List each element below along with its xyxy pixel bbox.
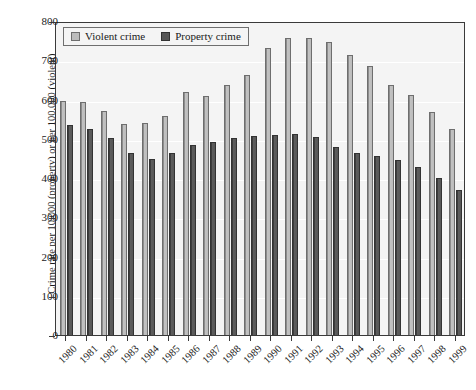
y-tick-mark xyxy=(49,297,55,298)
bar-property-crime xyxy=(149,159,155,335)
bar-violent-crime xyxy=(183,92,189,335)
x-tick-mark xyxy=(147,336,148,341)
x-tick-mark xyxy=(291,336,292,341)
bar-violent-crime xyxy=(306,38,312,336)
y-tick-mark xyxy=(49,140,55,141)
bar-property-crime xyxy=(456,190,462,335)
bar-violent-crime xyxy=(449,129,455,335)
bar-violent-crime xyxy=(224,85,230,335)
y-tick-mark xyxy=(49,179,55,180)
bar-violent-crime xyxy=(203,96,209,335)
x-tick-mark xyxy=(168,336,169,341)
legend-label-property-crime: Property crime xyxy=(175,31,241,42)
bar-violent-crime xyxy=(101,111,107,335)
bar-property-crime xyxy=(169,153,175,335)
y-tick-mark xyxy=(49,22,55,23)
bar-property-crime xyxy=(272,135,278,335)
legend-swatch-property-crime xyxy=(161,32,170,41)
bar-violent-crime xyxy=(429,112,435,335)
x-tick-mark xyxy=(250,336,251,341)
bar-property-crime xyxy=(436,178,442,335)
chart-legend: Violent crime Property crime xyxy=(63,27,249,46)
bar-property-crime xyxy=(231,138,237,335)
bar-violent-crime xyxy=(408,95,414,335)
bar-violent-crime xyxy=(265,48,271,335)
bar-property-crime xyxy=(128,153,134,336)
bar-property-crime xyxy=(354,153,360,335)
bar-violent-crime xyxy=(367,66,373,335)
x-tick-mark xyxy=(393,336,394,341)
y-tick-mark xyxy=(49,61,55,62)
bar-property-crime xyxy=(87,129,93,335)
x-tick-mark xyxy=(106,336,107,341)
bar-property-crime xyxy=(210,142,216,335)
x-tick-mark xyxy=(270,336,271,341)
x-tick-mark xyxy=(332,336,333,341)
bar-property-crime xyxy=(313,137,319,335)
x-tick-mark xyxy=(352,336,353,341)
bar-property-crime xyxy=(415,167,421,335)
bar-property-crime xyxy=(333,147,339,335)
x-tick-mark xyxy=(414,336,415,341)
legend-item-property-crime: Property crime xyxy=(161,31,241,42)
x-tick-mark xyxy=(229,336,230,341)
bar-violent-crime xyxy=(80,102,86,335)
bar-property-crime xyxy=(67,125,73,335)
legend-label-violent-crime: Violent crime xyxy=(85,31,145,42)
bar-violent-crime xyxy=(285,38,291,336)
bars-layer xyxy=(56,23,464,335)
y-tick-mark xyxy=(49,101,55,102)
bar-violent-crime xyxy=(347,55,353,335)
y-tick-mark xyxy=(49,336,55,337)
bar-property-crime xyxy=(190,145,196,335)
bar-violent-crime xyxy=(60,101,66,335)
bar-violent-crime xyxy=(121,124,127,335)
x-tick-mark xyxy=(373,336,374,341)
x-tick-mark xyxy=(209,336,210,341)
x-tick-mark xyxy=(127,336,128,341)
x-tick-mark xyxy=(311,336,312,341)
x-tick-mark xyxy=(434,336,435,341)
bar-violent-crime xyxy=(244,75,250,335)
bar-violent-crime xyxy=(142,123,148,335)
bar-property-crime xyxy=(292,134,298,335)
y-tick-mark xyxy=(49,258,55,259)
legend-swatch-violent-crime xyxy=(71,32,80,41)
crime-rate-bar-chart: Crime rate per 10,000 (property) or per … xyxy=(0,0,476,390)
legend-item-violent-crime: Violent crime xyxy=(71,31,145,42)
bar-property-crime xyxy=(251,136,257,335)
bar-violent-crime xyxy=(388,85,394,335)
y-tick-mark xyxy=(49,218,55,219)
bar-property-crime xyxy=(374,156,380,335)
x-tick-mark xyxy=(188,336,189,341)
bar-violent-crime xyxy=(326,42,332,335)
bar-violent-crime xyxy=(162,116,168,335)
x-tick-mark xyxy=(86,336,87,341)
bar-property-crime xyxy=(108,138,114,335)
x-tick-mark xyxy=(65,336,66,341)
bar-property-crime xyxy=(395,160,401,335)
x-tick-mark xyxy=(455,336,456,341)
plot-area xyxy=(55,22,465,336)
